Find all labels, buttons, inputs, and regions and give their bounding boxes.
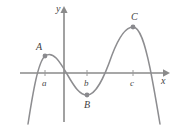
point-label-c: C <box>131 12 138 22</box>
y-axis-arrowhead <box>60 6 67 13</box>
point-marker-b <box>85 93 90 98</box>
y-axis-label: y <box>56 4 60 14</box>
point-marker-a <box>43 54 48 59</box>
horizontal-axis <box>20 69 170 77</box>
function-curve <box>28 27 160 124</box>
point-label-b: B <box>84 100 90 110</box>
point-marker-c <box>131 25 136 30</box>
cubic-graph-figure: y x a b c A B C <box>0 0 177 127</box>
tick-label-c: c <box>130 78 134 88</box>
tick-label-a: a <box>42 78 47 88</box>
tick-label-b: b <box>84 78 89 88</box>
point-label-a: A <box>36 42 42 52</box>
x-axis-label: x <box>161 76 165 86</box>
